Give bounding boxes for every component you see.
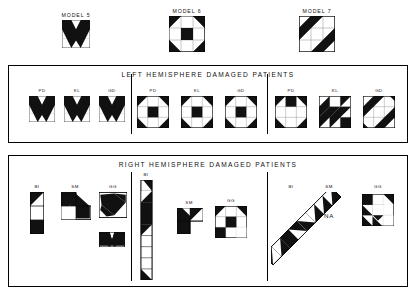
- lh-m5-pd-pattern: [29, 96, 55, 122]
- rh-m6-bi-pattern: [139, 180, 154, 280]
- model-7-pattern: [299, 16, 335, 52]
- lh-m7-gd-label: GD: [375, 88, 383, 93]
- model-6-label: MODEL 6: [158, 8, 216, 14]
- lh-m5-pd-label: PD: [38, 88, 45, 93]
- panel-right-divider-1: [131, 172, 132, 281]
- model-6-pattern: [169, 16, 205, 52]
- model-6: MODEL 6: [158, 8, 216, 56]
- model-7-label: MODEL 7: [288, 8, 346, 14]
- rh-m5-bi-pattern: [30, 192, 44, 234]
- lh-m6-gd-pattern: [225, 96, 257, 128]
- figure-root: MODEL 5 MODEL 6: [0, 0, 416, 295]
- lh-m6-kl-pattern: [181, 96, 213, 128]
- lh-m5-gd-label: GD: [108, 88, 116, 93]
- model-7: MODEL 7: [288, 8, 346, 56]
- panel-right-hemisphere-title: RIGHT HEMISPHERE DAMAGED PATIENTS: [9, 156, 407, 168]
- lh-m7-kl-label: KL: [332, 88, 338, 93]
- panel-right-divider-2: [267, 172, 268, 281]
- lh-m7-kl-pattern: [319, 96, 351, 128]
- rh-m6-gg-pattern: [215, 206, 247, 238]
- rh-m5-sm-label: SM: [71, 184, 79, 189]
- lh-m5-kl-label: KL: [74, 88, 80, 93]
- rh-m7-gg-label: GG: [374, 184, 382, 189]
- lh-m6-gd-label: GD: [237, 88, 245, 93]
- panel-right-hemisphere: RIGHT HEMISPHERE DAMAGED PATIENTS BI SM: [8, 155, 408, 287]
- model-5-pattern: [62, 20, 90, 48]
- panel-left-divider-2: [267, 74, 268, 135]
- rh-m7-sm-label: SM: [325, 184, 333, 189]
- lh-m5-gd-pattern: [99, 96, 125, 122]
- rh-m5-gg-pattern: [99, 192, 127, 218]
- model-5-label: MODEL 5: [50, 12, 102, 18]
- rh-m7-bi-pattern: [271, 192, 343, 284]
- lh-m6-kl-label: KL: [194, 88, 200, 93]
- rh-m6-gg-label: GG: [227, 198, 235, 203]
- rh-m7-bi-label: BI: [288, 184, 293, 189]
- lh-m6-pd-label: PD: [149, 88, 156, 93]
- rh-m6-sm-label: SM: [185, 200, 193, 205]
- lh-m5-kl-pattern: [64, 96, 90, 122]
- rh-m5-sm-pattern: [61, 192, 91, 220]
- rh-m6-sm-pattern: [177, 208, 203, 234]
- rh-m5-gg-label: GG: [109, 184, 117, 189]
- rh-m5-bi-label: BI: [34, 184, 39, 189]
- rh-m7-sm-na-value: NA: [324, 212, 334, 219]
- panel-left-hemisphere-title: LEFT HEMISPHERE DAMAGED PATIENTS: [9, 66, 407, 78]
- rh-m5-gg-pattern-secondary: [99, 232, 125, 247]
- panel-left-divider-1: [131, 74, 132, 135]
- rh-m7-gg-pattern: [362, 194, 394, 226]
- rh-m6-bi-label: BI: [143, 172, 148, 177]
- lh-m7-pd-label: PD: [287, 88, 294, 93]
- lh-m7-pd-pattern: [275, 96, 307, 128]
- model-row: MODEL 5 MODEL 6: [0, 0, 416, 58]
- lh-m7-gd-pattern: [363, 96, 395, 128]
- lh-m6-pd-pattern: [137, 96, 169, 128]
- panel-left-hemisphere: LEFT HEMISPHERE DAMAGED PATIENTS PD KL: [8, 65, 408, 143]
- model-5: MODEL 5: [50, 12, 102, 52]
